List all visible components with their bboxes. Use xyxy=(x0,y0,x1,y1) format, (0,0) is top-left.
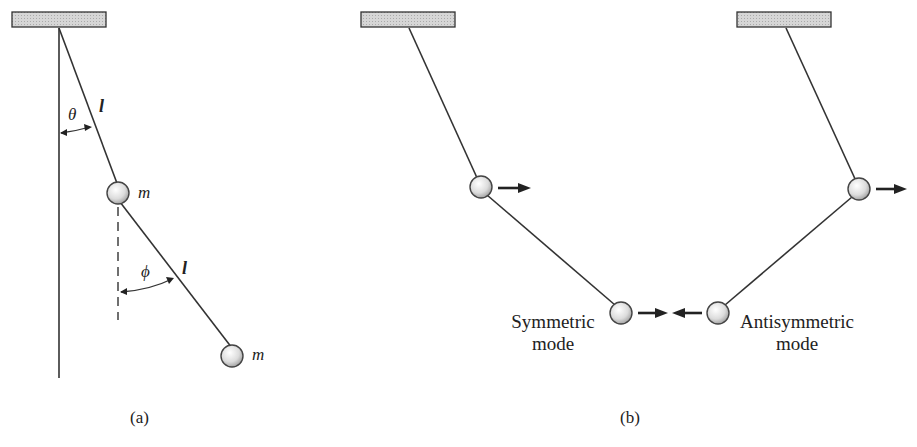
lower-mass-label: m xyxy=(252,345,264,364)
lower-mass-a xyxy=(221,345,243,367)
lower-mass-symmetric xyxy=(610,302,632,324)
ceiling-support-symmetric xyxy=(361,12,455,27)
theta-arrowhead-right xyxy=(84,124,92,131)
upper-mass-a xyxy=(107,182,129,204)
lower-rod-a xyxy=(120,202,232,348)
panel-b: Symmetric mode Antisymmetric mode (b) xyxy=(361,12,907,427)
upper-mass-label: m xyxy=(138,183,150,202)
caption-a: (a) xyxy=(130,408,149,427)
phi-label: ϕ xyxy=(141,262,150,281)
ceiling-support-antisymmetric xyxy=(737,12,831,27)
upper-mass-symmetric xyxy=(470,176,492,198)
lower-mass-antisymmetric xyxy=(707,302,729,324)
theta-arrowhead-left xyxy=(60,129,67,136)
upper-mass-antisymmetric xyxy=(848,178,870,200)
upper-arrowhead-antisymmetric xyxy=(894,184,907,194)
lower-rod-length-label: l xyxy=(182,258,187,278)
phi-arrowhead-left xyxy=(120,288,127,295)
lower-arrowhead-antisymmetric xyxy=(672,308,685,318)
ceiling-support-a xyxy=(12,12,106,27)
upper-rod-antisymmetric xyxy=(786,28,856,181)
lower-rod-symmetric xyxy=(487,195,615,305)
caption-b: (b) xyxy=(620,408,640,427)
lower-arrowhead-symmetric xyxy=(655,308,668,318)
symmetric-mode-label-line1: Symmetric xyxy=(511,311,594,332)
phi-arrowhead-right xyxy=(166,277,174,284)
antisymmetric-mode-label-line1: Antisymmetric xyxy=(740,311,854,332)
theta-label: θ xyxy=(68,105,76,124)
symmetric-mode-label-line2: mode xyxy=(532,333,574,354)
upper-rod-length-label: l xyxy=(99,96,104,116)
antisymmetric-mode-label-line2: mode xyxy=(776,333,818,354)
panel-a: θ l m ϕ l m (a) xyxy=(12,12,264,427)
upper-rod-symmetric xyxy=(409,28,478,180)
lower-rod-antisymmetric xyxy=(725,197,852,305)
upper-arrowhead-symmetric xyxy=(518,183,531,193)
double-pendulum-figure: θ l m ϕ l m (a) Symmetric mode Antisymme… xyxy=(0,0,917,447)
